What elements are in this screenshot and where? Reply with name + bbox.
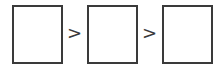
empty-box-3 [162,5,213,64]
empty-box-2 [87,5,138,64]
empty-box-1 [12,5,63,64]
greater-than-sign-1: > [67,24,82,42]
greater-than-sign-2: > [142,24,157,42]
